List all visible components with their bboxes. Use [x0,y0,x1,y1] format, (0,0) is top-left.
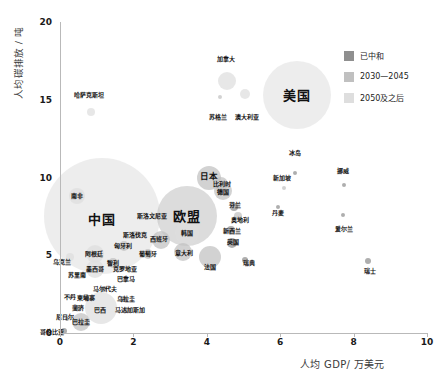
y-tick-label: 5 [28,250,52,260]
point-label-加拿大: 加拿大 [217,56,235,62]
legend-item-1[interactable]: 2030—2045 [344,67,432,86]
point-label-巴西: 巴西 [94,307,106,313]
x-tick-label: 10 [421,337,434,347]
x-axis-line [60,333,427,334]
x-tick-label: 6 [277,337,283,347]
x-tick-label: 4 [204,337,210,347]
legend: 已中和2030—20452050及之后 [344,46,432,109]
point-label-挪威: 挪威 [337,168,349,174]
point-label-韩国: 韩国 [181,230,193,236]
point-label-比利时: 比利时 [213,181,231,187]
point-label-澳大利亚: 澳大利亚 [235,114,259,120]
point-label-新加坡: 新加坡 [273,175,291,181]
y-tick-label: 10 [28,173,52,183]
point-label-巴拉圭: 巴拉圭 [72,319,90,325]
y-tick-label: 20 [28,17,52,27]
point-label-马尔代夫: 马尔代夫 [93,286,117,292]
y-tick-label: 0 [28,328,52,338]
point-label-匈牙利: 匈牙利 [114,243,132,249]
point-label-爱尔兰: 爱尔兰 [335,226,353,232]
point-label-哈萨克斯坦: 哈萨克斯坦 [74,92,104,98]
point-label-中国: 中国 [88,213,116,226]
legend-item-0[interactable]: 已中和 [344,46,432,65]
x-axis-title: 人均 GDP/ 万美元 [300,356,385,371]
bubble-chart: 美国加拿大苏格兰澳大利亚哈萨克斯坦中国南非欧盟日本比利时德国芬兰奥地利冰岛新加坡… [0,0,436,387]
legend-swatch-icon [344,93,354,103]
legend-label: 2030—2045 [360,72,409,81]
legend-label: 2050及之后 [360,92,404,103]
point-label-乌克兰: 乌克兰 [53,259,71,265]
point-label-意大利: 意大利 [175,250,193,256]
point-label-尼日尔: 尼日尔 [56,314,74,320]
legend-item-2[interactable]: 2050及之后 [344,88,432,107]
point-label-斐济: 斐济 [72,305,84,311]
point-label-苏里南: 苏里南 [68,272,86,278]
point-label-不丹: 不丹 [64,294,76,300]
x-tick-label: 8 [350,337,356,347]
legend-label: 已中和 [360,50,384,61]
point-label-丹麦: 丹麦 [272,210,284,216]
y-tick-label: 15 [28,95,52,105]
point-label-西班牙: 西班牙 [150,236,168,242]
bubble-苏格兰[interactable] [218,95,222,99]
legend-swatch-icon [344,72,354,82]
point-label-葡萄牙: 葡萄牙 [139,251,157,257]
bubble-新加坡[interactable] [282,186,286,190]
y-axis-title: 人均碳排放 / 吨 [11,21,25,105]
bubble-爱尔兰[interactable] [341,213,345,217]
bubble-冰岛[interactable] [293,171,297,175]
point-label-斯洛伐克: 斯洛伐克 [123,232,147,238]
point-label-南非: 南非 [71,193,83,199]
point-label-克罗地亚: 克罗地亚 [113,266,137,272]
point-label-苏格兰: 苏格兰 [209,114,227,120]
point-label-乌拉圭: 乌拉圭 [117,296,135,302]
point-label-瑞典: 瑞典 [243,260,255,266]
point-label-柬埔寨: 柬埔寨 [77,295,95,301]
bubble-澳大利亚[interactable] [240,89,250,99]
point-label-瑞士: 瑞士 [364,268,376,274]
bubble-瑞士[interactable] [365,258,371,264]
point-label-马达加斯加: 马达加斯加 [115,307,145,313]
point-label-巴拿马: 巴拿马 [117,276,135,282]
bubble-挪威[interactable] [342,183,346,187]
legend-swatch-icon [344,51,354,61]
point-label-阿根廷: 阿根廷 [85,251,103,257]
point-label-德国: 德国 [217,189,229,195]
bubble-加拿大[interactable] [218,72,236,90]
point-label-墨西哥: 墨西哥 [86,266,104,272]
x-tick-label: 2 [130,337,136,347]
point-label-新西兰: 新西兰 [223,228,241,234]
point-label-欧盟: 欧盟 [173,210,201,223]
point-label-芬兰: 芬兰 [229,202,241,208]
point-label-奥地利: 奥地利 [231,217,249,223]
point-label-法国: 法国 [204,264,216,270]
bubble-哈萨克斯坦[interactable] [87,108,95,116]
y-axis-line [60,22,61,333]
point-label-斯洛文尼亚: 斯洛文尼亚 [137,213,167,219]
point-label-美国: 美国 [283,89,311,102]
point-label-英国: 英国 [227,239,239,245]
point-label-冰岛: 冰岛 [289,150,301,156]
point-label-日本: 日本 [200,172,218,181]
x-tick-label: 0 [57,337,63,347]
